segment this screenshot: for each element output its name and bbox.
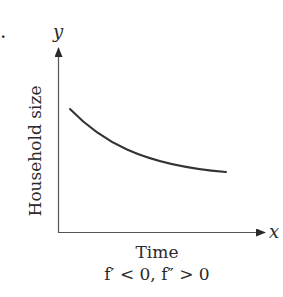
data-curve — [70, 109, 226, 172]
derivative-condition: f′ < 0, f″ > 0 — [104, 264, 209, 284]
panel-marker: . — [0, 19, 6, 43]
chart-figure: . y x Household size Time f′ < 0, f″ > 0 — [0, 0, 283, 297]
x-axis-label: Time — [136, 242, 179, 262]
y-axis-label: Household size — [25, 86, 45, 217]
x-axis-symbol: x — [269, 221, 279, 242]
y-axis-symbol: y — [52, 21, 64, 42]
